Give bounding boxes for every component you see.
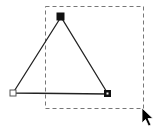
- drawing-canvas[interactable]: [0, 0, 163, 136]
- apex-vertex-handle[interactable]: [57, 13, 64, 20]
- left-vertex-handle[interactable]: [10, 90, 16, 96]
- arrow-pointer-icon: [142, 108, 153, 126]
- triangle-shape[interactable]: [13, 17, 108, 94]
